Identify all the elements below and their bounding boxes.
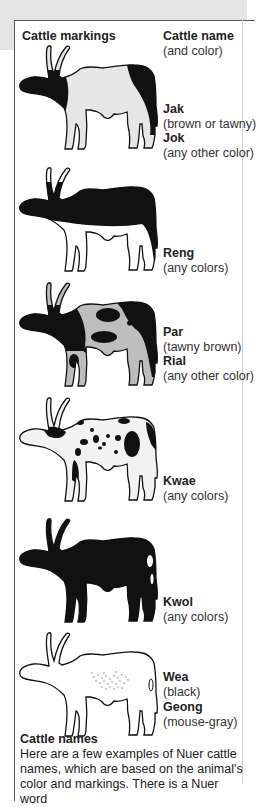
cow-illustration-reng	[18, 162, 163, 274]
cattle-color-kwol: (any colors)	[163, 610, 228, 624]
cattle-name-subheader: (and color)	[163, 44, 223, 58]
cattle-name-rial: Rial	[163, 354, 186, 368]
cattle-name-reng: Reng	[163, 246, 194, 260]
cow-illustration-kwol	[18, 513, 163, 625]
top-band	[0, 0, 247, 20]
cattle-color-jok: (any other color)	[163, 146, 254, 160]
cattle-color-reng: (any colors)	[163, 261, 228, 275]
cattle-name-kwae: Kwae	[163, 474, 196, 488]
cow-illustration-wea	[18, 627, 163, 739]
cattle-color-par: (tawny brown)	[163, 340, 242, 354]
panel-right-edge	[242, 20, 243, 784]
cattle-name-jak: Jak	[163, 102, 184, 116]
caption-title: Cattle names	[20, 732, 98, 746]
top-band-left	[0, 20, 14, 50]
cattle-name-header: Cattle name	[163, 29, 234, 43]
cattle-name-jok: Jok	[163, 131, 185, 145]
cattle-name-wea: Wea	[163, 670, 188, 684]
cattle-name-par: Par	[163, 325, 183, 339]
cattle-name-geong: Geong	[163, 700, 203, 714]
cattle-color-wea: (black)	[163, 685, 201, 699]
cow-illustration-kwae	[18, 392, 163, 504]
cattle-color-kwae: (any colors)	[163, 489, 228, 503]
cattle-color-jak: (brown or tawny)	[163, 117, 256, 131]
cattle-color-geong: (mouse-gray)	[163, 715, 237, 729]
cow-illustration-jak	[18, 40, 163, 152]
cattle-name-kwol: Kwol	[163, 595, 193, 609]
caption-text: Here are a few examples of Nuer cattle n…	[20, 747, 246, 807]
cow-illustration-par	[18, 277, 163, 389]
cattle-color-rial: (any other color)	[163, 369, 254, 383]
